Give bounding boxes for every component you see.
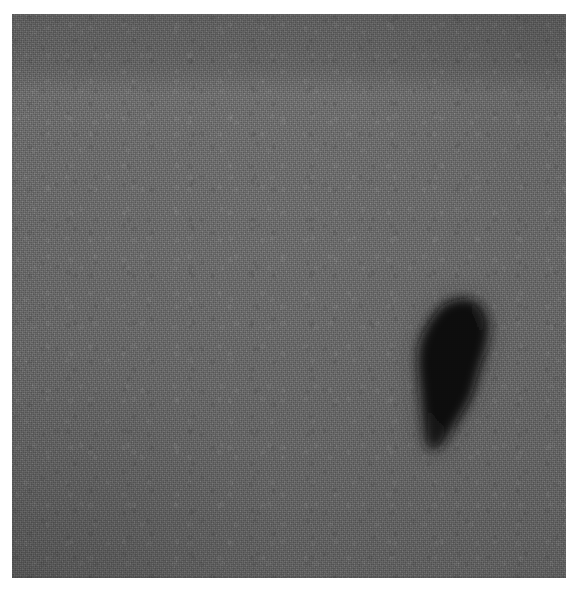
grey-field	[12, 14, 566, 578]
image-viewer	[0, 0, 579, 590]
film-grain-clumps	[12, 14, 566, 578]
